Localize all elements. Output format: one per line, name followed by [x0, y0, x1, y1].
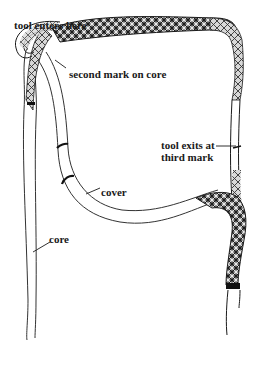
leader-second-mark	[55, 60, 66, 68]
mark-b	[62, 176, 74, 184]
first-mark	[27, 102, 35, 105]
leader-cover	[86, 188, 100, 194]
splice-diagram	[0, 0, 271, 376]
bottom-mark	[226, 283, 240, 289]
cover-right-vertical	[231, 100, 243, 205]
cover-bottom-junction	[196, 192, 246, 335]
leader-core	[33, 242, 50, 252]
label-tool-enters-here: tool enters here	[14, 19, 87, 31]
label-second-mark-on-core: second mark on core	[69, 68, 166, 80]
label-core: core	[49, 233, 69, 245]
mark-a	[57, 144, 68, 148]
label-tool-exits-third-mark: tool exits at third mark	[161, 139, 215, 163]
label-cover: cover	[101, 186, 127, 198]
